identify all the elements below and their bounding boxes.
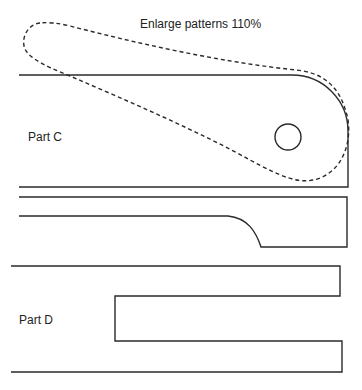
pattern-diagram: Enlarge patterns 110% Part C Part D	[0, 0, 362, 390]
part-c-outline	[19, 75, 348, 187]
diagram-title: Enlarge patterns 110%	[140, 17, 262, 31]
part-c-label: Part C	[28, 130, 62, 144]
dashed-cutout-outline	[24, 23, 349, 181]
part-c-hole	[275, 124, 301, 150]
part-c-strip-outline	[19, 197, 347, 247]
part-d-outline	[11, 266, 342, 372]
part-d-label: Part D	[19, 313, 53, 327]
